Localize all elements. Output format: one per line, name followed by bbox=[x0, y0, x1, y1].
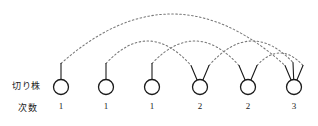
arcs-layer bbox=[61, 14, 303, 66]
stump-node bbox=[287, 80, 302, 95]
stump-node bbox=[54, 80, 69, 95]
degree-value: 2 bbox=[192, 101, 208, 111]
degree-row-label: 次数 bbox=[18, 101, 37, 114]
degree-value: 1 bbox=[144, 101, 160, 111]
stump-node bbox=[99, 80, 114, 95]
node-stem bbox=[251, 66, 257, 81]
node-stem bbox=[239, 66, 245, 81]
nodes-layer bbox=[54, 80, 302, 95]
stump-node bbox=[145, 80, 160, 95]
degree-value: 3 bbox=[286, 101, 302, 111]
stump-degree-diagram: 切り株 次数 111223 bbox=[0, 0, 318, 126]
stump-node bbox=[193, 80, 208, 95]
stump-row-label: 切り株 bbox=[12, 79, 41, 92]
stems-layer bbox=[61, 63, 303, 81]
connection-arc bbox=[257, 53, 303, 66]
stump-node bbox=[241, 80, 256, 95]
node-stem bbox=[285, 66, 291, 81]
degree-value: 2 bbox=[240, 101, 256, 111]
connection-arc bbox=[152, 41, 239, 66]
node-stem bbox=[203, 66, 209, 81]
node-stem bbox=[293, 63, 294, 80]
node-stem bbox=[191, 66, 197, 81]
node-stem bbox=[297, 66, 303, 81]
degree-value: 1 bbox=[98, 101, 114, 111]
connection-arc bbox=[61, 14, 285, 66]
degree-value: 1 bbox=[53, 101, 69, 111]
